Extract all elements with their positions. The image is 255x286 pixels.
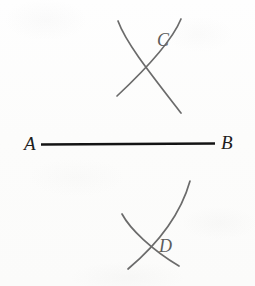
segment-ab-line [41,144,215,145]
geometry-figure: A B C D [0,0,255,286]
point-label-b: B [221,133,233,152]
point-label-c: C [157,31,169,49]
upper-right-arc [117,19,181,96]
construction-drawing [0,0,255,286]
point-label-a: A [24,134,36,153]
point-label-d: D [159,237,172,255]
